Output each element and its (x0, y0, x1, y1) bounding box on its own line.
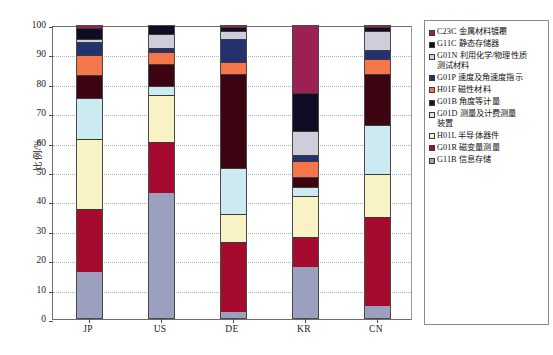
bar-segment-g01r (148, 142, 175, 193)
bar-segment-g11b (76, 272, 103, 318)
legend-item-1[interactable]: G11C 静态存储器 (429, 39, 545, 48)
legend: C23C 金属材料镀覆G11C 静态存储器G01N 利用化学/物理性质 测试材料… (424, 20, 549, 325)
y-tick-label: 70 (14, 109, 46, 119)
legend-item-5[interactable]: G01B 角度等计量 (429, 97, 545, 106)
legend-item-2[interactable]: G01N 利用化学/物理性质 测试材料 (429, 51, 545, 69)
bar-segment-g11b (364, 306, 391, 318)
bar-segment-h01f (364, 59, 391, 74)
y-tick-label: 40 (14, 198, 46, 208)
legend-label: H01F 磁性材料 (437, 85, 491, 94)
x-tick-mark (305, 319, 306, 323)
bar-segment-h01l (364, 174, 391, 217)
bar-segment-g11b (148, 193, 175, 318)
bar-segment-c23c (76, 25, 103, 28)
legend-item-9[interactable]: G11B 信息存储 (429, 155, 545, 164)
bar-segment-g01d (76, 98, 103, 139)
bar-segment-h01l (148, 95, 175, 142)
bar-segment-h01l (76, 139, 103, 210)
legend-swatch-icon (429, 133, 435, 139)
legend-item-0[interactable]: C23C 金属材料镀覆 (429, 27, 545, 36)
legend-swatch-icon (429, 87, 435, 93)
legend-label: G01R 磁变量测量 (437, 143, 500, 152)
bar-segment-c23c (292, 25, 319, 93)
y-tick-mark (49, 27, 53, 28)
y-tick-mark (49, 56, 53, 57)
x-tick-label-jp: JP (58, 324, 118, 334)
axes (52, 26, 412, 320)
legend-label: G01P 速度及角速度指示 (437, 73, 523, 82)
bar-de (220, 25, 247, 319)
legend-swatch-icon (429, 145, 435, 151)
legend-label: G01N 利用化学/物理性质 测试材料 (437, 51, 527, 69)
bar-segment-g01p (148, 48, 175, 52)
legend-item-7[interactable]: H01L 半导体器件 (429, 131, 545, 140)
bar-us (148, 25, 175, 319)
x-tick-mark (233, 319, 234, 323)
bar-segment-g11b (292, 267, 319, 318)
legend-item-3[interactable]: G01P 速度及角速度指示 (429, 73, 545, 82)
figure-container: 比例/% 0102030405060708090100 JPUSDEKRCN C… (0, 0, 553, 355)
bar-cn (364, 25, 391, 319)
y-tick-mark (49, 115, 53, 116)
bar-segment-g11c (292, 93, 319, 131)
y-tick-mark (49, 174, 53, 175)
bar-segment-g01b (364, 74, 391, 125)
legend-swatch-icon (429, 30, 435, 36)
bar-segment-g01n (220, 31, 247, 38)
bar-segment-g01b (76, 75, 103, 97)
bar-segment-h01f (220, 62, 247, 74)
y-tick-mark (49, 203, 53, 204)
legend-item-4[interactable]: H01F 磁性材料 (429, 85, 545, 94)
y-tick-label: 20 (14, 256, 46, 266)
y-tick-label: 50 (14, 168, 46, 178)
legend-item-6[interactable]: G01D 测量及计费测量 装置 (429, 109, 545, 127)
bar-segment-g01b (148, 64, 175, 86)
bar-segment-g01d (292, 187, 319, 196)
bar-segment-g01d (364, 125, 391, 174)
legend-swatch-icon (429, 54, 435, 60)
legend-label: G01B 角度等计量 (437, 97, 500, 106)
x-tick-label-kr: KR (274, 324, 334, 334)
bar-segment-g11c (148, 25, 175, 34)
bar-segment-c23c (364, 25, 391, 27)
legend-label: C23C 金属材料镀覆 (437, 27, 507, 36)
bar-segment-h01l (220, 214, 247, 242)
x-tick-mark (161, 319, 162, 323)
y-tick-label: 0 (14, 315, 46, 325)
bar-segment-g01r (364, 217, 391, 307)
bar-segment-c23c (220, 25, 247, 27)
y-tick-mark (49, 262, 53, 263)
bar-segment-h01f (76, 55, 103, 76)
y-tick-label: 80 (14, 80, 46, 90)
y-tick-mark (49, 321, 53, 322)
bar-segment-g01b (220, 74, 247, 168)
bar-segment-g11c (364, 27, 391, 31)
bar-segment-g11c (220, 27, 247, 31)
x-tick-mark (377, 319, 378, 323)
bar-segment-g01p (292, 155, 319, 161)
y-tick-label: 90 (14, 51, 46, 61)
x-tick-mark (89, 319, 90, 323)
plot-area: 比例/% 0102030405060708090100 JPUSDEKRCN (0, 0, 420, 345)
legend-label: G11B 信息存储 (437, 155, 491, 164)
bar-segment-g01n (76, 39, 103, 42)
legend-label: H01L 半导体器件 (437, 131, 499, 140)
x-tick-label-us: US (130, 324, 190, 334)
x-tick-label-de: DE (202, 324, 262, 334)
legend-item-8[interactable]: G01R 磁变量测量 (429, 143, 545, 152)
y-tick-mark (49, 145, 53, 146)
legend-swatch-icon (429, 75, 435, 81)
bar-segment-g01n (364, 31, 391, 50)
bar-segment-h01l (292, 196, 319, 237)
legend-label: G01D 测量及计费测量 装置 (437, 109, 516, 127)
bar-segment-g11b (220, 312, 247, 318)
y-tick-label: 10 (14, 286, 46, 296)
y-axis-tick-labels: 0102030405060708090100 (14, 20, 46, 322)
legend-swatch-icon (429, 100, 435, 106)
legend-swatch-icon (429, 42, 435, 48)
bar-segment-g01n (292, 131, 319, 155)
x-tick-label-cn: CN (346, 324, 406, 334)
bar-segment-g01p (364, 50, 391, 59)
bar-segment-g01d (148, 86, 175, 95)
legend-swatch-icon (429, 158, 435, 164)
